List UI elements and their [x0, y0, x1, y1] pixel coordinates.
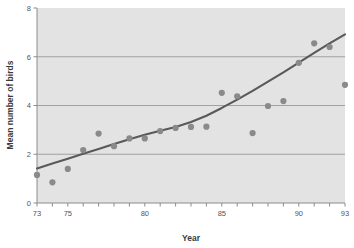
- x-tick-label: 93: [341, 209, 349, 218]
- y-tick-label: 4: [27, 101, 31, 110]
- data-point: [49, 179, 55, 185]
- x-axis-ticks: [37, 203, 345, 207]
- x-tick-label: 80: [141, 209, 149, 218]
- data-point: [327, 44, 333, 50]
- y-axis-title: Mean number of birds: [5, 60, 15, 149]
- data-point: [126, 135, 132, 141]
- x-tick-label: 75: [64, 209, 72, 218]
- data-point: [96, 130, 102, 136]
- x-tick-label: 90: [295, 209, 303, 218]
- data-point: [203, 124, 209, 130]
- x-tick-label: 73: [33, 209, 41, 218]
- data-point: [219, 90, 225, 96]
- data-point: [65, 166, 71, 172]
- data-point: [234, 93, 240, 99]
- data-point: [142, 135, 148, 141]
- data-point: [111, 143, 117, 149]
- y-tick-label: 0: [27, 199, 31, 208]
- data-point: [173, 125, 179, 131]
- data-point: [188, 124, 194, 130]
- bird-count-scatter-chart: 737580859093 02468 Year Mean number of b…: [0, 0, 354, 248]
- data-point: [311, 40, 317, 46]
- data-point: [34, 172, 40, 178]
- data-point: [280, 98, 286, 104]
- x-tick-label: 85: [218, 209, 226, 218]
- data-point: [250, 130, 256, 136]
- chart-figure: 737580859093 02468 Year Mean number of b…: [0, 0, 354, 248]
- x-axis-title: Year: [182, 233, 201, 243]
- y-tick-label: 6: [27, 53, 31, 62]
- data-point: [296, 60, 302, 66]
- data-point: [265, 103, 271, 109]
- data-point: [80, 147, 86, 153]
- y-tick-label: 8: [27, 4, 31, 13]
- data-point: [342, 82, 348, 88]
- data-point: [157, 128, 163, 134]
- y-tick-label: 2: [27, 150, 31, 159]
